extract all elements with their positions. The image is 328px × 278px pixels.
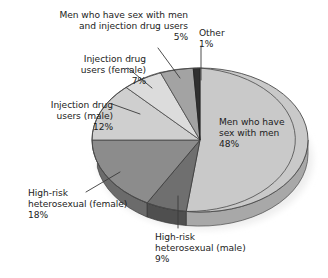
slice-label-idu-female: Injection drug users (female) 7% xyxy=(34,54,146,88)
slice-label-other: Other 1% xyxy=(199,28,259,50)
slice-label-msm: Men who have sex with men 48% xyxy=(219,117,311,151)
slice-label-msm-idu: Men who have sex with men and injection … xyxy=(40,10,188,44)
slice-label-hrh-female: High-risk heterosexual (female) 18% xyxy=(28,188,150,222)
slice-label-hrh-male: High-risk heterosexual (male) 9% xyxy=(155,232,285,266)
pie-chart-figure: Men who have sex with men and injection … xyxy=(0,0,328,278)
slice-label-idu-male: Injection drug users (male) 12% xyxy=(8,100,113,134)
